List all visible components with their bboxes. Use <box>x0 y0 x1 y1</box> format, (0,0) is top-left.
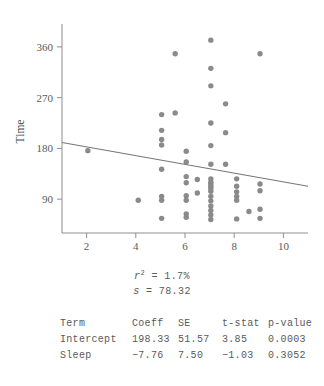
cell-pvalue: 0.3052 <box>268 348 318 364</box>
header-term: Term <box>60 316 132 332</box>
data-point <box>257 181 262 186</box>
cell-term: Intercept <box>60 332 132 348</box>
table-header-row: Term Coeff SE t-stat p-value <box>60 316 318 332</box>
x-axis-ticks: 246810 <box>84 233 290 252</box>
cell-se: 7.50 <box>178 348 222 364</box>
scatter-plot-svg: 246810 90180270360 Sleep Time <box>0 0 324 258</box>
s-line: s = 78.32 <box>0 284 324 299</box>
data-point <box>257 207 262 212</box>
cell-se: 51.57 <box>178 332 222 348</box>
data-point <box>85 148 90 153</box>
data-point <box>223 101 228 106</box>
data-point <box>159 198 164 203</box>
data-point <box>208 120 213 125</box>
y-tick-label: 90 <box>42 193 54 205</box>
y-tick-label: 360 <box>37 41 54 53</box>
r-squared-line: r2 = 1.7% <box>0 266 324 284</box>
data-point <box>184 198 189 203</box>
data-point <box>208 217 213 222</box>
data-point <box>184 174 189 179</box>
data-point <box>172 110 177 115</box>
data-point <box>195 177 200 182</box>
header-coeff: Coeff <box>132 316 178 332</box>
x-tick-label: 4 <box>133 240 139 252</box>
y-axis-title: Time <box>14 120 26 144</box>
data-point <box>234 216 239 221</box>
data-point <box>159 112 164 117</box>
data-point <box>195 190 200 195</box>
cell-coeff: 198.33 <box>132 332 178 348</box>
x-tick-label: 6 <box>182 240 188 252</box>
data-point <box>159 128 164 133</box>
data-point <box>223 130 228 135</box>
data-point <box>208 198 213 203</box>
s-value: = 78.32 <box>140 286 191 297</box>
data-point <box>159 137 164 142</box>
data-point <box>223 162 228 167</box>
data-point <box>208 37 213 42</box>
table-row: Intercept 198.33 51.57 3.85 0.0003 <box>60 332 318 348</box>
data-point <box>184 215 189 220</box>
data-point <box>208 66 213 71</box>
data-point <box>234 176 239 181</box>
cell-coeff: −7.76 <box>132 348 178 364</box>
data-point <box>184 149 189 154</box>
data-point <box>208 189 213 194</box>
cell-tstat: 3.85 <box>222 332 268 348</box>
data-point <box>257 216 262 221</box>
y-tick-label: 270 <box>37 92 54 104</box>
data-point <box>136 198 141 203</box>
cell-pvalue: 0.0003 <box>268 332 318 348</box>
data-point <box>246 209 251 214</box>
x-tick-label: 8 <box>231 240 237 252</box>
data-point <box>172 51 177 56</box>
data-point <box>159 142 164 147</box>
header-se: SE <box>178 316 222 332</box>
data-point <box>257 188 262 193</box>
regression-figure: 246810 90180270360 Sleep Time r2 = 1.7% … <box>0 0 324 386</box>
summary-statistics: r2 = 1.7% s = 78.32 <box>0 266 324 299</box>
data-point <box>208 143 213 148</box>
data-point <box>208 83 213 88</box>
data-point <box>159 216 164 221</box>
r-squared-value: = 1.7% <box>145 271 190 282</box>
data-point <box>208 162 213 167</box>
data-point <box>257 51 262 56</box>
x-tick-label: 10 <box>278 240 290 252</box>
table-row: Sleep −7.76 7.50 −1.03 0.3052 <box>60 348 318 364</box>
cell-tstat: −1.03 <box>222 348 268 364</box>
header-tstat: t-stat <box>222 316 268 332</box>
header-pvalue: p-value <box>268 316 318 332</box>
y-tick-label: 180 <box>37 142 54 154</box>
data-point <box>159 167 164 172</box>
data-point <box>184 180 189 185</box>
coefficients-table: Term Coeff SE t-stat p-value Intercept 1… <box>60 316 318 364</box>
y-axis-ticks: 90180270360 <box>37 41 63 205</box>
scatter-plot-panel: 246810 90180270360 Sleep Time <box>0 0 324 258</box>
data-point <box>234 183 239 188</box>
data-point <box>234 198 239 203</box>
data-points <box>85 37 263 222</box>
x-tick-label: 2 <box>84 240 90 252</box>
cell-term: Sleep <box>60 348 132 364</box>
